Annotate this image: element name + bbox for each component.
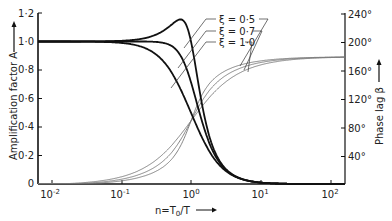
phase-tick-label: 240°: [348, 9, 372, 20]
svg-text:n=T0/T: n=T0/T: [155, 205, 191, 218]
phase-tick-label: 40°: [348, 151, 366, 162]
legend-xi-0.5: ξ = 0·5: [219, 14, 255, 25]
x-tick-labels: 10-2 10-1 100 101 102: [40, 188, 338, 200]
svg-text:Phase lag β: Phase lag β: [374, 87, 385, 145]
x-tick-label: 10-2: [40, 188, 60, 200]
right-y-tick-labels: 40° 80° 120° 160° 200° 240°: [348, 9, 372, 162]
amplitude-curves: [38, 20, 345, 185]
left-y-tick-labels: 0 0·2 0·4 0·6 0·8 1·0 1·2: [18, 8, 34, 189]
x-arrowhead-icon: [212, 208, 217, 213]
x-axis-label: n=T0/T: [155, 205, 217, 218]
y-tick-label: 0: [28, 178, 34, 189]
y-tick-label: 0·8: [18, 64, 34, 75]
y-tick-label: 0·6: [18, 93, 34, 104]
y-left-arrowhead-icon: [12, 21, 17, 27]
amplitude-curve-xi-1: [38, 42, 345, 185]
y-tick-label: 1·0: [18, 36, 34, 47]
svg-text:Amplification factor A: Amplification factor A: [8, 52, 19, 160]
x-tick-label: 100: [182, 188, 199, 200]
x-tick-label: 101: [251, 188, 268, 200]
phase-curve-xi-1: [38, 57, 345, 183]
y-tick-label: 0·2: [18, 150, 34, 161]
phase-curves: [38, 57, 345, 184]
phase-tick-label: 120°: [348, 94, 372, 105]
y-tick-label: 1·2: [18, 8, 34, 19]
y-tick-label: 0·4: [18, 121, 34, 132]
amplitude-curve-xi-0.5: [38, 20, 345, 185]
x-tick-label: 10-1: [110, 188, 130, 200]
frequency-response-chart: 0 0·2 0·4 0·6 0·8 1·0 1·2 40° 80° 120° 1…: [0, 0, 392, 221]
y-right-arrowhead-icon: [377, 59, 382, 65]
phase-tick-label: 160°: [348, 66, 372, 77]
legend-xi-0.7: ξ = 0·7: [219, 26, 255, 37]
y-right-label: Phase lag β: [374, 59, 385, 145]
x-tick-label: 102: [321, 188, 338, 200]
phase-tick-label: 80°: [348, 123, 366, 134]
phase-tick-label: 200°: [348, 37, 372, 48]
legend-xi-1.0: ξ = 1·0: [219, 37, 255, 48]
